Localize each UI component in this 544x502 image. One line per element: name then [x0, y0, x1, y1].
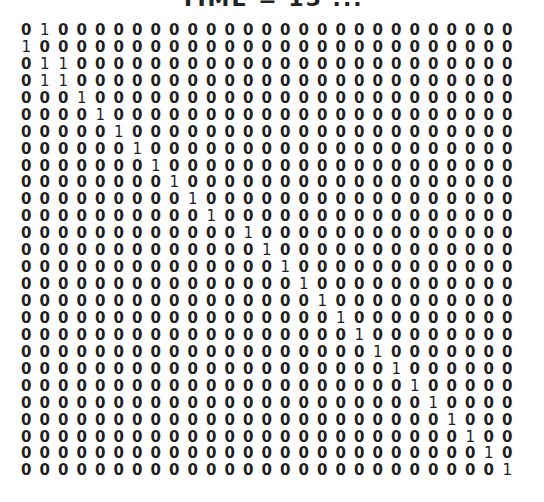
matrix-cell: 0: [295, 293, 314, 310]
matrix-cell: 0: [480, 208, 499, 225]
matrix-cell: 0: [184, 429, 203, 446]
matrix-cell: 0: [147, 310, 166, 327]
matrix-cell: 0: [332, 124, 351, 141]
matrix-cell: 0: [369, 225, 388, 242]
matrix-cell: 0: [54, 293, 73, 310]
matrix-cell: 0: [258, 378, 277, 395]
matrix-cell: 0: [221, 412, 240, 429]
matrix-cell: 0: [184, 56, 203, 73]
matrix-cell: 0: [461, 141, 480, 158]
matrix-cell: 0: [313, 225, 332, 242]
matrix-cell: 0: [276, 107, 295, 124]
matrix-cell: 0: [54, 378, 73, 395]
matrix-cell: 0: [17, 259, 36, 276]
matrix-cell: 0: [202, 39, 221, 56]
matrix-cell: 0: [128, 310, 147, 327]
matrix-cell: 0: [258, 462, 277, 479]
matrix-cell: 0: [73, 412, 92, 429]
matrix-cell: 0: [17, 327, 36, 344]
matrix-cell: 0: [276, 378, 295, 395]
matrix-cell: 0: [91, 445, 110, 462]
matrix-cell: 0: [165, 73, 184, 90]
matrix-cell: 0: [36, 191, 55, 208]
matrix-cell: 0: [239, 22, 258, 39]
matrix-cell: 0: [221, 462, 240, 479]
matrix-cell: 0: [54, 107, 73, 124]
matrix-cell: 0: [258, 344, 277, 361]
matrix-cell: 0: [147, 378, 166, 395]
matrix-cell: 0: [73, 124, 92, 141]
matrix-cell: 0: [54, 208, 73, 225]
matrix-cell: 0: [36, 141, 55, 158]
matrix-cell: 0: [239, 242, 258, 259]
matrix-cell: 0: [387, 174, 406, 191]
matrix-cell: 0: [202, 107, 221, 124]
matrix-cell: 0: [239, 90, 258, 107]
matrix-cell: 0: [202, 395, 221, 412]
matrix-cell: 0: [461, 208, 480, 225]
matrix-cell: 0: [461, 90, 480, 107]
matrix-cell: 0: [406, 242, 425, 259]
matrix-cell: 0: [17, 429, 36, 446]
matrix-cell: 0: [165, 259, 184, 276]
matrix-cell: 0: [480, 141, 499, 158]
matrix-cell: 0: [461, 412, 480, 429]
matrix-cell: 0: [369, 429, 388, 446]
matrix-cell: 0: [184, 327, 203, 344]
matrix-cell: 0: [221, 395, 240, 412]
matrix-cell: 0: [424, 174, 443, 191]
matrix-cell: 0: [165, 208, 184, 225]
matrix-cell: 0: [406, 208, 425, 225]
matrix-cell: 0: [258, 73, 277, 90]
matrix-cell: 0: [406, 361, 425, 378]
matrix-cell: 0: [202, 344, 221, 361]
matrix-cell: 0: [498, 259, 517, 276]
matrix-cell: 0: [276, 395, 295, 412]
matrix-cell: 0: [128, 462, 147, 479]
matrix-cell: 0: [295, 56, 314, 73]
matrix-cell: 1: [54, 73, 73, 90]
matrix-cell: 1: [165, 174, 184, 191]
matrix-cell: 0: [165, 445, 184, 462]
matrix-cell: 0: [165, 242, 184, 259]
matrix-cell: 0: [258, 90, 277, 107]
matrix-cell: 0: [498, 445, 517, 462]
matrix-cell: 0: [36, 344, 55, 361]
matrix-cell: 0: [369, 174, 388, 191]
matrix-cell: 0: [350, 39, 369, 56]
matrix-cell: 0: [350, 344, 369, 361]
matrix-cell: 0: [443, 395, 462, 412]
matrix-cell: 0: [221, 445, 240, 462]
matrix-cell: 0: [258, 395, 277, 412]
matrix-cell: 0: [221, 158, 240, 175]
matrix-cell: 0: [313, 259, 332, 276]
matrix-cell: 0: [313, 395, 332, 412]
matrix-cell: 0: [73, 310, 92, 327]
matrix-cell: 0: [202, 22, 221, 39]
matrix-cell: 0: [54, 462, 73, 479]
matrix-cell: 0: [480, 395, 499, 412]
matrix-cell: 0: [498, 73, 517, 90]
matrix-cell: 1: [128, 141, 147, 158]
matrix-cell: 0: [369, 90, 388, 107]
matrix-cell: 0: [17, 445, 36, 462]
matrix-cell: 0: [221, 225, 240, 242]
matrix-cell: 0: [184, 107, 203, 124]
matrix-cell: 0: [110, 225, 129, 242]
matrix-cell: 0: [498, 276, 517, 293]
matrix-cell: 0: [424, 208, 443, 225]
matrix-cell: 0: [443, 39, 462, 56]
matrix-cell: 0: [443, 158, 462, 175]
matrix-cell: 0: [424, 462, 443, 479]
matrix-cell: 0: [202, 90, 221, 107]
matrix-cell: 0: [54, 225, 73, 242]
matrix-cell: 0: [165, 276, 184, 293]
matrix-cell: 0: [73, 39, 92, 56]
matrix-cell: 0: [147, 429, 166, 446]
matrix-cell: 0: [480, 73, 499, 90]
matrix-cell: 0: [91, 39, 110, 56]
matrix-cell: 0: [332, 208, 351, 225]
matrix-cell: 0: [498, 22, 517, 39]
matrix-cell: 0: [461, 378, 480, 395]
matrix-cell: 0: [54, 141, 73, 158]
